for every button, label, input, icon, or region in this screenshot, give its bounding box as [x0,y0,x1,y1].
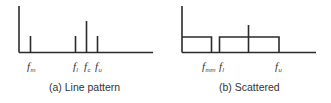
caption-scattered: (b) Scattered [219,81,280,93]
label-fc: fc [84,60,91,73]
label-fl: fl [73,60,79,73]
label-fu: fu [95,60,103,73]
panel-b-scattered: fmm fl fu [182,6,316,73]
scatter-band-low [182,37,212,53]
label-fu-b: fu [275,60,283,73]
caption-line-pattern: (a) Line pattern [49,81,120,93]
label-fl-b: fl [219,60,225,73]
panel-a-line-pattern: fm fl fc fu [19,6,153,73]
label-fmm: fmm [202,60,216,73]
spectrum-figure: fm fl fc fu fmm fl fu [0,0,331,80]
label-fm: fm [27,60,36,73]
